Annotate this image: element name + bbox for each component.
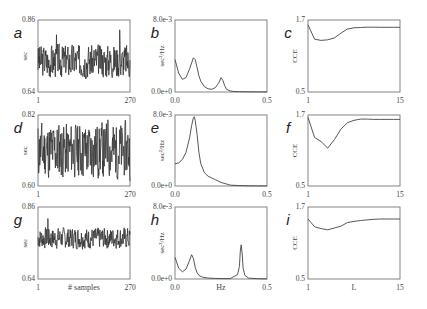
y-axis-label: sec: [21, 239, 29, 248]
panel-d: d0.600.821270sec: [14, 110, 136, 199]
x-tick-label: 1: [36, 96, 40, 105]
x-tick-label: 15: [396, 283, 404, 292]
x-tick-label: 15: [396, 190, 404, 199]
panel-letter: g: [14, 211, 23, 228]
series-line: [38, 120, 130, 181]
panel-e: e0.0e+08.0e-30.00.5sec²/Hz: [151, 110, 272, 199]
panel-letter: c: [284, 24, 292, 41]
y-tick-label: 0.0e+0: [151, 274, 172, 283]
plot-frame: [308, 115, 400, 186]
plot-frame: [175, 115, 267, 186]
x-axis-label: Hz: [216, 283, 226, 292]
y-axis-label: sec²/Hz: [158, 140, 166, 161]
y-tick-label: 0.5: [296, 181, 306, 190]
y-tick-label: 1.7: [296, 15, 306, 24]
panel-letter: e: [151, 119, 159, 136]
panel-letter: b: [151, 24, 159, 41]
y-axis-label: sec²/Hz: [158, 45, 166, 66]
x-tick-label: 0.0: [170, 190, 180, 199]
y-tick-label: 1.7: [296, 110, 306, 119]
y-tick-label: 0.5: [296, 274, 306, 283]
panel-h: h0.0e+08.0e-30.00.5sec²/HzHz: [151, 202, 272, 292]
plot-frame: [308, 207, 400, 279]
x-tick-label: 270: [124, 283, 136, 292]
y-tick-label: 8.0e-3: [153, 202, 172, 211]
series-line: [308, 219, 400, 230]
series-line: [175, 245, 267, 279]
series-line: [175, 58, 267, 92]
y-tick-label: 8.0e-3: [153, 110, 172, 119]
y-tick-label: 0.86: [22, 15, 35, 24]
series-line: [175, 117, 267, 186]
x-tick-label: 1: [36, 283, 40, 292]
panel-b: b0.0e+08.0e-30.00.5sec²/Hz: [151, 15, 272, 105]
y-tick-label: 0.82: [22, 110, 35, 119]
y-axis-label: CCE: [291, 49, 299, 63]
y-tick-label: 1.7: [296, 202, 306, 211]
panel-g: g0.640.861270sec# samples: [14, 202, 136, 292]
x-tick-label: 1: [306, 96, 310, 105]
y-tick-label: 8.0e-3: [153, 15, 172, 24]
panel-letter: i: [286, 211, 290, 228]
plot-frame: [308, 20, 400, 92]
panel-letter: f: [286, 119, 292, 136]
y-axis-label: CCE: [291, 144, 299, 158]
y-tick-label: 0.64: [22, 87, 35, 96]
y-axis-label: sec: [21, 52, 29, 61]
series-line: [38, 219, 130, 250]
x-tick-label: 0.0: [170, 283, 180, 292]
x-tick-label: 1: [306, 283, 310, 292]
figure-grid: a0.640.861270secb0.0e+08.0e-30.00.5sec²/…: [0, 0, 427, 309]
panel-letter: d: [14, 119, 23, 136]
x-tick-label: 1: [36, 190, 40, 199]
y-tick-label: 0.64: [22, 274, 35, 283]
y-axis-label: sec²/Hz: [158, 232, 166, 253]
series-line: [308, 117, 400, 148]
panel-i: i0.51.7115CCEL: [286, 202, 404, 292]
y-axis-label: CCE: [291, 236, 299, 250]
panel-letter: a: [14, 24, 22, 41]
x-axis-label: # samples: [68, 283, 100, 292]
x-tick-label: 270: [124, 96, 136, 105]
panel-c: c0.51.7115CCE: [284, 15, 404, 105]
x-axis-label: L: [352, 283, 357, 292]
y-tick-label: 0.0e+0: [151, 87, 172, 96]
y-tick-label: 0.60: [22, 181, 35, 190]
x-tick-label: 15: [396, 96, 404, 105]
y-tick-label: 0.0e+0: [151, 181, 172, 190]
y-tick-label: 0.86: [22, 202, 35, 211]
plot-frame: [175, 20, 267, 92]
x-tick-label: 0.0: [170, 96, 180, 105]
x-tick-label: 0.5: [262, 283, 272, 292]
x-tick-label: 0.5: [262, 96, 272, 105]
x-tick-label: 1: [306, 190, 310, 199]
panel-a: a0.640.861270sec: [14, 15, 136, 105]
y-tick-label: 0.5: [296, 87, 306, 96]
y-axis-label: sec: [21, 146, 29, 155]
x-tick-label: 0.5: [262, 190, 272, 199]
x-tick-label: 270: [124, 190, 136, 199]
panel-letter: h: [151, 211, 159, 228]
series-line: [38, 30, 130, 79]
panel-f: f0.51.7115CCE: [286, 110, 404, 199]
plot-frame: [175, 207, 267, 279]
series-line: [308, 25, 400, 41]
